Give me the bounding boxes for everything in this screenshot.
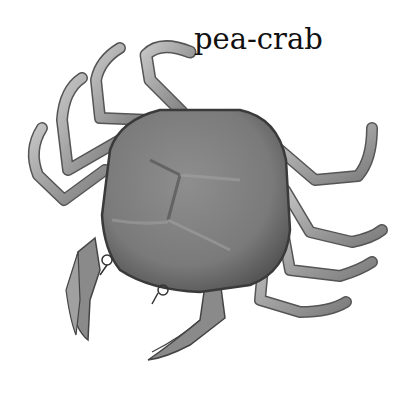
pea-crab-illustration <box>0 0 408 396</box>
carapace <box>100 110 290 304</box>
species-label: pea-crab <box>194 22 323 56</box>
image-canvas: pea-crab <box>0 0 408 396</box>
